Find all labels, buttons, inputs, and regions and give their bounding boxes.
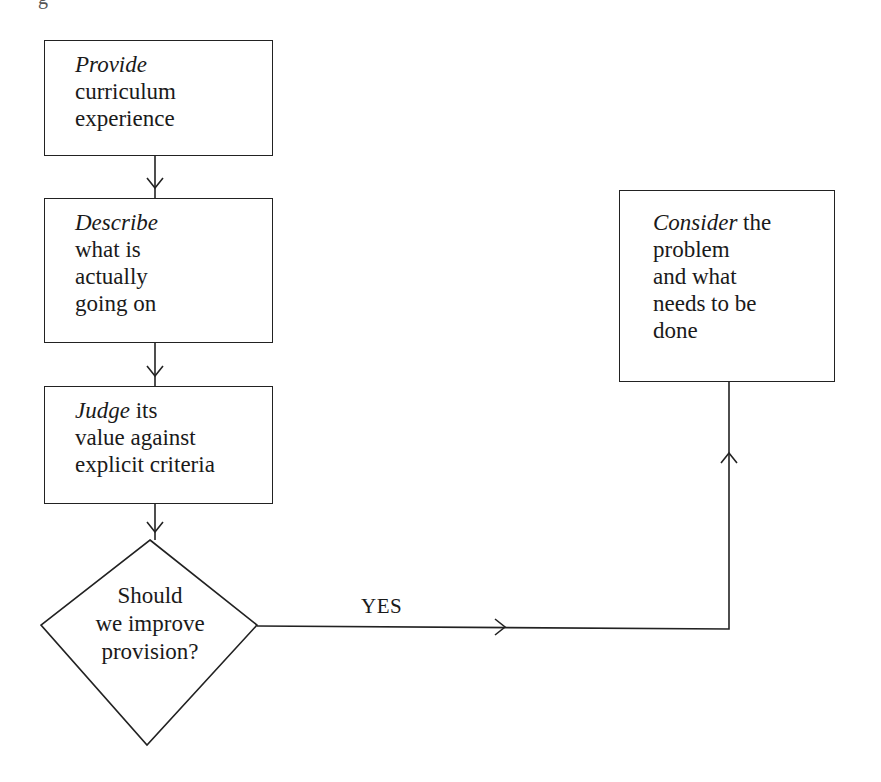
node-consider-line: needs to be [653, 290, 834, 317]
node-describe-line: going on [75, 290, 272, 317]
node-decision-line: provision? [70, 638, 230, 666]
node-describe: Describe what is actually going on [44, 198, 273, 343]
node-decision-line: we improve [70, 610, 230, 638]
node-judge-line: explicit criteria [75, 451, 272, 478]
node-judge-verb: Judge [75, 398, 130, 423]
node-consider: Consider the problem and what needs to b… [619, 190, 835, 382]
node-consider-line: and what [653, 263, 834, 290]
edge-label-yes: YES [361, 594, 402, 619]
node-provide-line: curriculum [75, 78, 272, 105]
node-judge-first-rest: its [130, 398, 157, 423]
node-describe-line: what is [75, 236, 272, 263]
node-judge: Judge its value against explicit criteri… [44, 386, 273, 504]
node-consider-line: problem [653, 236, 834, 263]
node-consider-first-rest: the [737, 210, 771, 235]
node-decision: Should we improve provision? [70, 582, 230, 666]
node-decision-line: Should [70, 582, 230, 610]
node-describe-line: actually [75, 263, 272, 290]
node-provide-line: experience [75, 105, 272, 132]
node-describe-verb: Describe [75, 210, 158, 235]
node-provide: Provide curriculum experience [44, 40, 273, 156]
node-consider-line: done [653, 317, 834, 344]
node-provide-verb: Provide [75, 52, 147, 77]
node-consider-verb: Consider [653, 210, 737, 235]
node-judge-line: value against [75, 424, 272, 451]
